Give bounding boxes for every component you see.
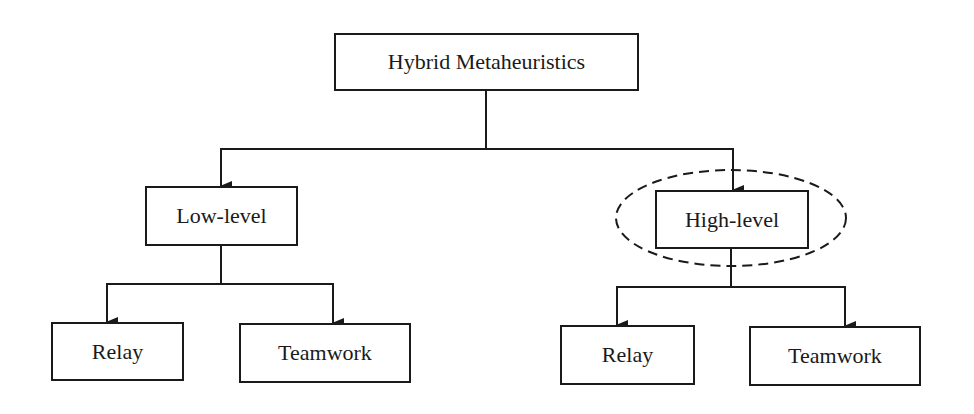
low-relay-node: Relay bbox=[51, 322, 184, 381]
low-level-node: Low-level bbox=[145, 186, 298, 246]
low-teamwork-label: Teamwork bbox=[278, 340, 372, 366]
high-level-label: High-level bbox=[685, 207, 779, 233]
root-node-label: Hybrid Metaheuristics bbox=[388, 49, 585, 75]
root-node: Hybrid Metaheuristics bbox=[334, 33, 639, 91]
high-level-node: High-level bbox=[655, 190, 809, 249]
high-teamwork-node: Teamwork bbox=[749, 326, 921, 386]
low-level-label: Low-level bbox=[176, 203, 266, 229]
low-teamwork-node: Teamwork bbox=[239, 323, 411, 383]
high-relay-node: Relay bbox=[560, 325, 695, 385]
low-relay-label: Relay bbox=[92, 339, 143, 365]
high-teamwork-label: Teamwork bbox=[788, 343, 882, 369]
high-relay-label: Relay bbox=[602, 342, 653, 368]
